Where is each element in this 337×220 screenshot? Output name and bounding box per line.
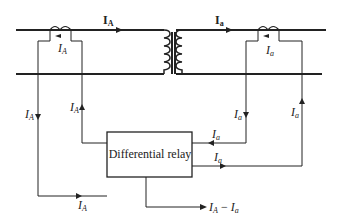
secondary-current-arrow <box>226 27 233 33</box>
output-label: IA − Ia <box>209 201 239 215</box>
right-up-arrow <box>299 98 305 104</box>
left-ct-wire-inner <box>71 30 107 143</box>
differential-relay-diagram: IA Ia IA Ia IA IA IA Ia Ia Ia Ia Differe… <box>0 0 337 220</box>
transformer-primary-coil <box>164 30 170 74</box>
left-ct-arrow <box>55 34 61 38</box>
output-wire <box>146 177 200 207</box>
left-ct-label: IA <box>58 42 67 56</box>
right-ct-label: Ia <box>266 44 274 58</box>
relay-label: Differential relay <box>108 147 192 162</box>
secondary-current-label: Ia <box>215 14 224 28</box>
left-up-arrow <box>79 104 85 110</box>
left-down-arrow <box>35 114 41 120</box>
left-bottom-label: IA <box>78 199 87 213</box>
right-ct-wire-inner <box>192 30 258 143</box>
right-in-label: Ia <box>212 128 220 142</box>
output-arrow <box>200 204 207 210</box>
primary-current-label: IA <box>103 14 113 28</box>
circuit-drawing <box>0 0 337 220</box>
right-ct-wire-outer <box>192 30 302 166</box>
right-up-label: Ia <box>291 106 299 120</box>
right-out-label: Ia <box>214 151 222 165</box>
transformer-secondary-coil <box>176 30 182 74</box>
right-down-label: Ia <box>234 108 242 122</box>
left-down-label: IA <box>25 108 34 122</box>
right-down-arrow <box>243 112 249 118</box>
left-up-label: IA <box>70 101 79 115</box>
primary-current-arrow <box>116 27 123 33</box>
right-ct-arrow <box>263 34 269 38</box>
